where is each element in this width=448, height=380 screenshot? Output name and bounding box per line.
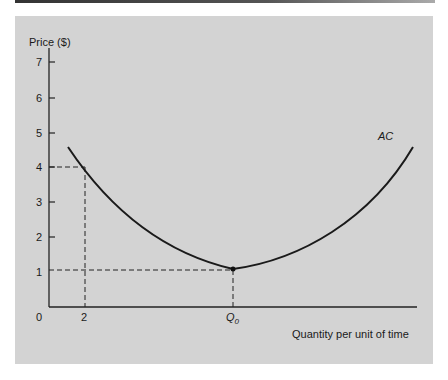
x-axis-title: Quantity per unit of time [292, 328, 409, 340]
y-tick-label: 6 [36, 92, 42, 104]
y-tick-label: 2 [36, 231, 42, 243]
x-tick-label-q0: Q0 [226, 311, 240, 326]
ac-curve-chart: 7 6 5 4 3 2 1 0 Price ($) AC 2 Q0 Quanti… [0, 0, 448, 380]
guide-lines [49, 167, 233, 307]
origin-label: 0 [36, 311, 42, 323]
ac-curve [68, 147, 413, 269]
x-tick-label-2: 2 [81, 311, 87, 323]
ac-curve-label: AC [377, 130, 393, 142]
y-tick-label: 1 [36, 266, 42, 278]
y-tick-label: 4 [36, 161, 42, 173]
y-axis-title: Price ($) [29, 36, 71, 48]
y-ticks [49, 62, 55, 237]
y-tick-label: 7 [36, 56, 42, 68]
y-tick-label: 3 [36, 196, 42, 208]
minimum-point-marker [231, 267, 236, 272]
y-tick-label: 5 [36, 127, 42, 139]
